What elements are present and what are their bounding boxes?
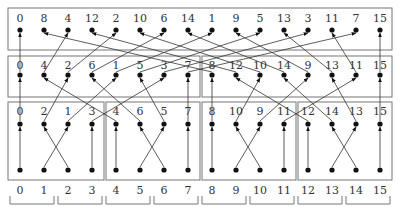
top-node [209,27,214,32]
output-index-label: 13 [325,184,339,197]
output-index-label: 6 [161,184,168,197]
inputs-node [65,167,70,172]
layer-boxes [8,8,392,180]
middle-node-label: 6 [89,59,96,72]
inputs-node [209,167,214,172]
output-index-label: 9 [233,184,240,197]
middle-node-label: 3 [161,59,168,72]
edge-9 [236,33,308,72]
pair-bracket [346,196,390,204]
permutation-network-diagram: 0841221061419513311715042615378121014913… [0,0,400,213]
top-node [185,27,190,32]
lower-node-label: 8 [209,105,216,118]
pair-bracket [298,196,342,204]
middle-node-label: 4 [41,59,48,72]
output-index-label: 12 [301,184,315,197]
lower-node [161,121,166,126]
middle-node [233,72,238,77]
top-node-label: 11 [325,12,339,25]
inputs-node [41,167,46,172]
middle-node-label: 14 [277,59,291,72]
output-index-label: 15 [373,184,387,197]
output-index-label: 7 [185,184,192,197]
top-node [89,27,94,32]
inputs-node [377,167,382,172]
lower-node [137,121,142,126]
top-node [257,27,262,32]
middle-node-label: 2 [65,59,72,72]
edge-4 [44,78,116,121]
pair-bracket [106,196,150,204]
lower-node-label: 14 [325,105,339,118]
top-node [41,27,46,32]
lower-node-label: 11 [277,105,291,118]
lower-node [353,121,358,126]
middle-node [137,72,142,77]
lower-node [113,121,118,126]
middle-node [65,72,70,77]
pair-bracket [58,196,102,204]
top-node [281,27,286,32]
output-index-label: 11 [277,184,291,197]
lower-node-label: 1 [65,105,72,118]
inputs-node [233,167,238,172]
lower-node [89,121,94,126]
middle-node-label: 5 [137,59,144,72]
middle-node-label: 1 [113,59,120,72]
top-node-label: 7 [353,12,360,25]
top-node-label: 1 [209,12,216,25]
lower-node [233,121,238,126]
middle-node [353,72,358,77]
lower-node [329,121,334,126]
top-node-label: 3 [305,12,312,25]
lower-node [209,121,214,126]
middle-node-label: 0 [17,59,24,72]
inputs-node [17,167,22,172]
lower-node-label: 7 [185,105,192,118]
middle-node-label: 12 [229,59,243,72]
middle-node-label: 8 [209,59,216,72]
top-node [353,27,358,32]
pair-bracket [154,196,198,204]
network-canvas: 0841221061419513311715042615378121014913… [0,0,400,213]
top-node [137,27,142,32]
lower-node-label: 6 [137,105,144,118]
output-index-label: 1 [41,184,48,197]
top-node-label: 14 [181,12,195,25]
top-node-label: 0 [17,12,24,25]
middle-node [161,72,166,77]
lower-node-label: 3 [89,105,96,118]
pair-bracket [202,196,246,204]
middle-node [329,72,334,77]
output-index-label: 2 [65,184,72,197]
middle-node [185,72,190,77]
lower-node [305,121,310,126]
top-node-label: 9 [233,12,240,25]
top-node-label: 8 [41,12,48,25]
middle-node [41,72,46,77]
top-node [65,27,70,32]
lower-node [281,121,286,126]
inputs-node [113,167,118,172]
inputs-node [137,167,142,172]
lower-node-label: 12 [301,105,315,118]
middle-node-label: 9 [305,59,312,72]
edge-12 [236,78,308,121]
top-node-label: 2 [113,12,120,25]
middle-node-label: 15 [373,59,387,72]
output-index-label: 5 [137,184,144,197]
middle-node-label: 11 [349,59,363,72]
inputs-node [281,167,286,172]
lower-node-label: 13 [349,105,363,118]
top-node-label: 5 [257,12,264,25]
middle-node [281,72,286,77]
inputs-node [353,167,358,172]
lower-node-label: 9 [257,105,264,118]
top-node [329,27,334,32]
middle-node [305,72,310,77]
middle-node-label: 10 [253,59,267,72]
middle-node [17,72,22,77]
output-index-label: 4 [113,184,120,197]
lower-node [65,121,70,126]
lower-node-label: 4 [113,105,120,118]
